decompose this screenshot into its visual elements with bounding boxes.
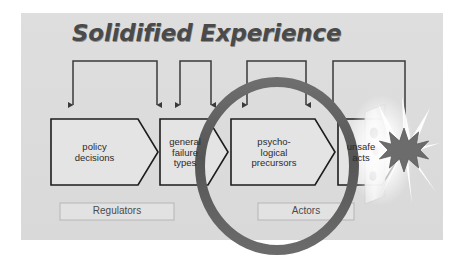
node-general-failure-types-shape: [160, 119, 228, 185]
node-policy-decisions-shape: [51, 119, 158, 185]
group-label-actors: Actors: [258, 203, 354, 220]
page-title: Solidified Experience: [72, 20, 332, 46]
bracket-1-path: [73, 61, 157, 105]
group-label-regulators: Regulators: [60, 203, 174, 220]
solidified-experience-diagram: Solidified Experience policy decisions g…: [0, 0, 466, 270]
node-psychological-precursors-shape: [231, 119, 335, 185]
bracket-2-path: [180, 61, 211, 105]
